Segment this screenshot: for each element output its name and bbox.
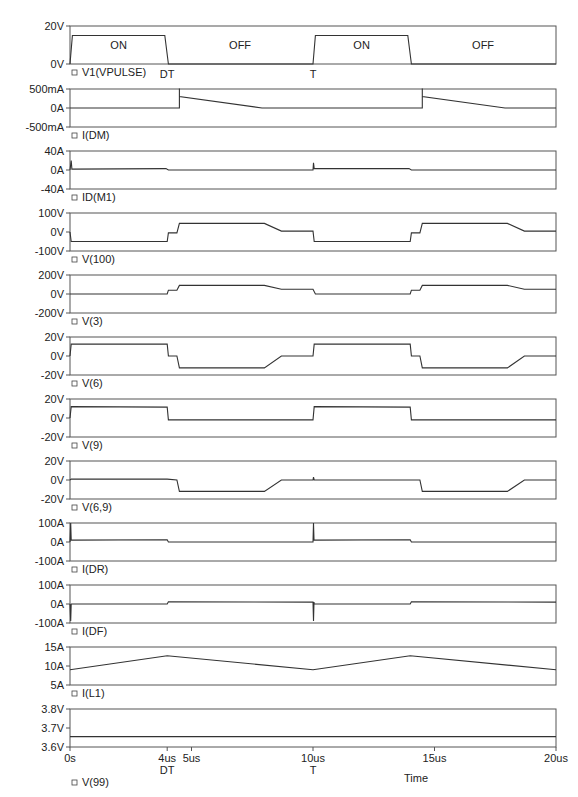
time-marker-label: DT xyxy=(160,68,175,80)
state-annotation: ON xyxy=(110,39,127,51)
panel-v-100-: 100V0V-100VV(100) xyxy=(35,207,556,265)
state-annotation: OFF xyxy=(472,39,494,51)
y-tick-label: 10A xyxy=(44,660,64,672)
y-tick-label: 100V xyxy=(38,207,64,219)
y-tick-label: 0V xyxy=(51,226,65,238)
y-tick-label: 3.6V xyxy=(41,741,64,753)
state-annotation: ON xyxy=(353,39,370,51)
y-tick-label: 20V xyxy=(44,20,64,32)
x-tick-label: 5us xyxy=(183,752,201,764)
y-tick-label: 40A xyxy=(44,145,64,157)
panel-id-m1-: 40A0A-40AID(M1) xyxy=(41,145,556,203)
x-axis-title: Time xyxy=(404,772,428,784)
y-tick-label: 100A xyxy=(38,579,64,591)
y-tick-label: -20V xyxy=(41,493,65,505)
y-tick-label: 0A xyxy=(51,536,65,548)
trace-legend-label: ID(M1) xyxy=(82,191,116,203)
trace-line xyxy=(70,523,556,542)
panel-i-dr-: 100A0A-100AI(DR) xyxy=(35,517,556,575)
trace-legend-label: V(6,9) xyxy=(82,501,112,513)
trace-legend-label: V(99) xyxy=(82,776,109,788)
legend-square-icon xyxy=(72,629,77,634)
trace-line xyxy=(70,344,556,368)
y-tick-label: 0V xyxy=(51,350,65,362)
y-tick-label: 0V xyxy=(51,412,65,424)
x-tick-sublabel: DT xyxy=(160,764,175,776)
panel-v-3-: 200V0V-200VV(3) xyxy=(35,269,556,327)
legend-square-icon xyxy=(72,319,77,324)
legend-square-icon xyxy=(72,780,77,785)
legend-square-icon xyxy=(72,133,77,138)
panel-v-6-9-: 20V0V-20VV(6,9) xyxy=(41,455,556,513)
trace-line xyxy=(70,223,556,241)
x-tick-label: 0s xyxy=(64,752,76,764)
x-tick-label: 10us xyxy=(301,752,325,764)
legend-square-icon xyxy=(72,70,77,75)
trace-legend-label: V(100) xyxy=(82,253,115,265)
y-tick-label: -100V xyxy=(35,245,65,257)
y-tick-label: -40A xyxy=(41,183,65,195)
trace-line xyxy=(70,477,556,491)
trace-line xyxy=(70,161,556,171)
panel-v-9-: 20V0V-20VV(9) xyxy=(41,393,556,451)
time-marker-label: T xyxy=(310,68,317,80)
trace-legend-label: V1(VPULSE) xyxy=(82,66,146,78)
y-tick-label: 20V xyxy=(44,455,64,467)
y-tick-label: 0A xyxy=(51,598,65,610)
panels-group: 20V0VONOFFONOFFDTTV1(VPULSE)500mA0A-500m… xyxy=(25,20,556,788)
trace-legend-label: V(9) xyxy=(82,439,103,451)
trace-legend-label: V(3) xyxy=(82,315,103,327)
trace-line xyxy=(70,285,556,294)
trace-line xyxy=(70,407,556,420)
y-tick-label: 200V xyxy=(38,269,64,281)
legend-square-icon xyxy=(72,443,77,448)
y-tick-label: 500mA xyxy=(29,83,65,95)
trace-legend-label: V(6) xyxy=(82,377,103,389)
y-tick-label: 100A xyxy=(38,517,64,529)
y-tick-label: -100A xyxy=(35,555,65,567)
legend-square-icon xyxy=(72,257,77,262)
y-tick-label: -200V xyxy=(35,307,65,319)
y-tick-label: -100A xyxy=(35,617,65,629)
trace-legend-label: I(DM) xyxy=(82,129,110,141)
plot-frame xyxy=(70,647,556,685)
y-tick-label: -20V xyxy=(41,431,65,443)
trace-legend-label: I(DR) xyxy=(82,563,108,575)
trace-legend-label: I(DF) xyxy=(82,625,107,637)
legend-square-icon xyxy=(72,505,77,510)
legend-square-icon xyxy=(72,381,77,386)
state-annotation: OFF xyxy=(229,39,251,51)
x-axis: 0s4usDT5us10usT15us20us xyxy=(64,747,568,776)
trace-line xyxy=(70,656,556,670)
panel-v-6-: 20V0V-20VV(6) xyxy=(41,331,556,389)
trace-line xyxy=(70,602,556,621)
legend-square-icon xyxy=(72,691,77,696)
y-tick-label: 0V xyxy=(51,474,65,486)
legend-square-icon xyxy=(72,567,77,572)
panel-i-dm-: 500mA0A-500mAI(DM) xyxy=(25,83,556,141)
x-tick-sublabel: T xyxy=(310,764,317,776)
y-tick-label: 0V xyxy=(51,58,65,70)
y-tick-label: 20V xyxy=(44,393,64,405)
y-tick-label: 3.7V xyxy=(41,722,64,734)
panel-v-99-: 3.8V3.7V3.6VV(99) xyxy=(41,703,556,788)
plot-frame xyxy=(70,709,556,747)
x-tick-label: 15us xyxy=(423,752,447,764)
x-tick-label: 20us xyxy=(544,752,568,764)
y-tick-label: 3.8V xyxy=(41,703,64,715)
y-tick-label: 20V xyxy=(44,331,64,343)
legend-square-icon xyxy=(72,195,77,200)
y-tick-label: 0A xyxy=(51,164,65,176)
waveform-chart: 20V0VONOFFONOFFDTTV1(VPULSE)500mA0A-500m… xyxy=(0,0,578,797)
y-tick-label: 15A xyxy=(44,641,64,653)
trace-line xyxy=(70,89,556,108)
y-tick-label: -500mA xyxy=(25,121,64,133)
y-tick-label: 0V xyxy=(51,288,65,300)
trace-legend-label: I(L1) xyxy=(82,687,105,699)
y-tick-label: -20V xyxy=(41,369,65,381)
panel-i-l1-: 15A10A5AI(L1) xyxy=(44,641,556,699)
y-tick-label: 0A xyxy=(51,102,65,114)
y-tick-label: 5A xyxy=(51,679,65,691)
x-tick-label: 4us xyxy=(158,752,176,764)
panel-i-df-: 100A0A-100AI(DF) xyxy=(35,579,556,637)
